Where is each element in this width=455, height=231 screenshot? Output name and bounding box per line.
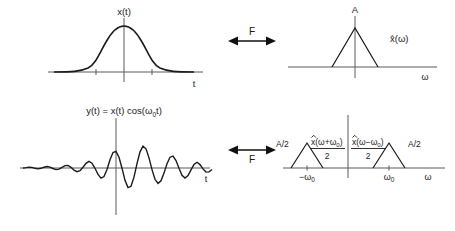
arrow-bottom-F-label: F [249,154,255,165]
arrow-top-F-label: F [249,26,255,37]
right-fraction-denominator: 2 [366,151,371,161]
bottom-left-axis-label: t [205,174,208,184]
figure-root: x(t) t A x̂(ω) ω F y( [0,0,455,231]
panel-top-right: A x̂(ω) ω [288,4,437,82]
x-hat-omega-text: x̂(ω) [390,33,409,44]
right-amplitude-label: A/2 [408,139,421,149]
arrow-top-head-left [228,37,238,46]
x-hat-omega-label: x̂(ω) [390,33,409,44]
arrow-bottom-head-left [228,146,238,155]
left-fraction-numerator: x(ω+ω0) [311,137,343,148]
arrow-bottom-head-right [266,146,276,155]
top-right-axis-label: ω [421,72,428,82]
x-of-t-label: x(t) [117,6,131,17]
panel-bottom-right: A/2 A/2 x(ω+ω0) 2 x(ω−ω0) 2 [276,115,445,183]
right-fraction-numerator: x(ω−ω0) [352,137,384,148]
panel-top-left: x(t) t [48,6,203,89]
bottom-right-axis-label: ω [424,172,431,182]
fourier-arrow-top-group: F [228,26,276,46]
panel-bottom-left: y(t) = x(t) cos(ω0t) t [20,105,212,215]
tick-label-minus-omega0: −ω0 [299,172,315,183]
left-fraction: x(ω+ω0) 2 [310,135,345,161]
top-left-axis-label: t [193,79,196,89]
figure-canvas: x(t) t A x̂(ω) ω F y( [0,0,455,231]
amplitude-A-label: A [352,4,359,15]
fourier-arrow-bottom-group: F [228,146,276,166]
arrow-top-head-right [266,37,276,46]
left-amplitude-label: A/2 [276,139,289,149]
right-fraction: x(ω−ω0) 2 [351,135,386,161]
modulated-cosine-curve [23,146,212,187]
left-fraction-denominator: 2 [325,151,330,161]
y-equation-label: y(t) = x(t) cos(ω0t) [86,105,162,118]
tick-label-omega0: ω0 [384,172,395,183]
